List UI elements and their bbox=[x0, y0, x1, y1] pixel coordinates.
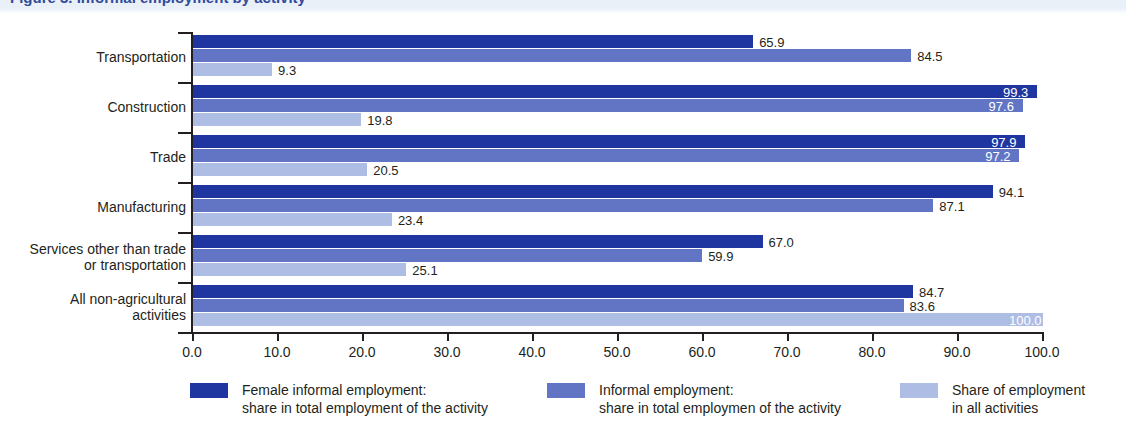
bars-container: 84.783.6100.0 bbox=[193, 285, 1073, 329]
plot-area: Transportation65.984.59.3Construction99.… bbox=[0, 14, 1126, 344]
category-label: All non-agriculturalactivities bbox=[0, 291, 186, 323]
bars-container: 99.397.619.8 bbox=[193, 85, 1073, 129]
x-axis: 0.010.020.030.040.050.060.070.080.090.01… bbox=[0, 332, 1126, 372]
category-label: Construction bbox=[0, 99, 186, 115]
bar-chart: Transportation65.984.59.3Construction99.… bbox=[0, 14, 1126, 435]
bar-series-1[interactable] bbox=[193, 99, 1023, 112]
x-axis-tick-label: 40.0 bbox=[502, 344, 562, 360]
bar-series-1[interactable] bbox=[193, 149, 1019, 162]
legend-label-series-0: Female informal employment: share in tot… bbox=[242, 381, 488, 417]
bar-value-label: 87.1 bbox=[939, 200, 964, 213]
bar-value-label: 83.6 bbox=[910, 300, 935, 313]
category-label: Transportation bbox=[0, 49, 186, 65]
bars-container: 94.187.123.4 bbox=[193, 185, 1073, 229]
bar-value-label: 25.1 bbox=[412, 264, 437, 277]
x-axis-tick bbox=[362, 332, 364, 341]
category-label-line: Transportation bbox=[96, 49, 186, 65]
bar-group: Construction99.397.619.8 bbox=[0, 82, 1126, 132]
bar-series-0[interactable] bbox=[193, 135, 1025, 148]
bar-series-0[interactable] bbox=[193, 35, 753, 48]
bar-group: Transportation65.984.59.3 bbox=[0, 32, 1126, 82]
x-axis-tick bbox=[447, 332, 449, 341]
x-axis-tick bbox=[957, 332, 959, 341]
bar-group: Manufacturing94.187.123.4 bbox=[0, 182, 1126, 232]
bar-series-0[interactable] bbox=[193, 185, 993, 198]
category-label-line: or transportation bbox=[84, 257, 186, 273]
x-axis-tick bbox=[277, 332, 279, 341]
bar-group: Trade97.997.220.5 bbox=[0, 132, 1126, 182]
bar-value-label: 20.5 bbox=[373, 164, 398, 177]
category-label: Manufacturing bbox=[0, 199, 186, 215]
legend-label-series-2-line1: Share of employment bbox=[952, 382, 1085, 398]
legend-label-series-2-line2: in all activities bbox=[952, 400, 1038, 416]
x-axis-tick bbox=[192, 332, 194, 341]
x-axis-tick bbox=[787, 332, 789, 341]
legend-label-series-0-line2: share in total employment of the activit… bbox=[242, 400, 488, 416]
x-axis-tick-label: 90.0 bbox=[927, 344, 987, 360]
bar-value-label: 97.2 bbox=[985, 150, 1010, 163]
bar-value-label: 99.3 bbox=[1003, 86, 1028, 99]
bar-series-2[interactable] bbox=[193, 163, 367, 176]
legend-swatch-series-2 bbox=[900, 383, 938, 398]
bar-series-2[interactable] bbox=[193, 113, 361, 126]
bar-value-label: 97.6 bbox=[989, 100, 1014, 113]
bar-value-label: 94.1 bbox=[999, 186, 1024, 199]
legend-swatch-series-0 bbox=[190, 383, 228, 398]
x-axis-tick bbox=[702, 332, 704, 341]
legend-label-series-1: Informal employment: share in total empl… bbox=[599, 381, 841, 417]
legend-label-series-1-line1: Informal employment: bbox=[599, 382, 734, 398]
x-axis-tick-label: 0.0 bbox=[162, 344, 222, 360]
x-axis-tick-label: 10.0 bbox=[247, 344, 307, 360]
legend-label-series-2: Share of employment in all activities bbox=[952, 381, 1085, 417]
bar-series-1[interactable] bbox=[193, 299, 904, 312]
x-axis-tick bbox=[1042, 332, 1044, 341]
bar-value-label: 84.7 bbox=[919, 286, 944, 299]
bars-container: 65.984.59.3 bbox=[193, 35, 1073, 79]
bar-value-label: 100.0 bbox=[1009, 314, 1042, 327]
bar-group: Services other than tradeor transportati… bbox=[0, 232, 1126, 282]
bar-series-1[interactable] bbox=[193, 49, 911, 62]
x-axis-tick-label: 60.0 bbox=[672, 344, 732, 360]
bar-value-label: 67.0 bbox=[769, 236, 794, 249]
chart-legend: Female informal employment: share in tot… bbox=[0, 381, 1126, 435]
category-label-line: Trade bbox=[150, 149, 186, 165]
legend-label-series-0-line1: Female informal employment: bbox=[242, 382, 426, 398]
x-axis-tick bbox=[872, 332, 874, 341]
x-axis-tick bbox=[532, 332, 534, 341]
x-axis-tick bbox=[617, 332, 619, 341]
bar-series-2[interactable] bbox=[193, 213, 392, 226]
x-axis-tick-label: 50.0 bbox=[587, 344, 647, 360]
bar-series-2[interactable] bbox=[193, 313, 1043, 326]
x-axis-tick-label: 80.0 bbox=[842, 344, 902, 360]
category-label-line: Manufacturing bbox=[97, 199, 186, 215]
bar-series-0[interactable] bbox=[193, 235, 763, 248]
legend-swatch-series-1 bbox=[547, 383, 585, 398]
bar-series-0[interactable] bbox=[193, 285, 913, 298]
category-label-line: activities bbox=[132, 307, 186, 323]
cropped-title-band: Figure 3. Informal employment by activit… bbox=[0, 0, 1126, 14]
legend-label-series-1-line2: share in total employmen of the activity bbox=[599, 400, 841, 416]
bar-series-0[interactable] bbox=[193, 85, 1037, 98]
bar-value-label: 97.9 bbox=[991, 136, 1016, 149]
bar-value-label: 59.9 bbox=[708, 250, 733, 263]
bar-series-1[interactable] bbox=[193, 199, 933, 212]
category-label: Trade bbox=[0, 149, 186, 165]
category-label-line: Services other than trade bbox=[30, 241, 186, 257]
bar-value-label: 65.9 bbox=[759, 36, 784, 49]
x-axis-tick-label: 100.0 bbox=[1012, 344, 1072, 360]
bars-container: 97.997.220.5 bbox=[193, 135, 1073, 179]
bar-value-label: 23.4 bbox=[398, 214, 423, 227]
figure-title: Figure 3. Informal employment by activit… bbox=[10, 0, 306, 6]
x-axis-tick-label: 30.0 bbox=[417, 344, 477, 360]
x-axis-tick-label: 70.0 bbox=[757, 344, 817, 360]
x-axis-tick-label: 20.0 bbox=[332, 344, 392, 360]
bar-series-2[interactable] bbox=[193, 63, 272, 76]
bar-series-1[interactable] bbox=[193, 249, 702, 262]
bar-value-label: 19.8 bbox=[367, 114, 392, 127]
bar-series-2[interactable] bbox=[193, 263, 406, 276]
category-label: Services other than tradeor transportati… bbox=[0, 241, 186, 273]
bar-group: All non-agriculturalactivities84.783.610… bbox=[0, 282, 1126, 332]
bars-container: 67.059.925.1 bbox=[193, 235, 1073, 279]
bar-value-label: 84.5 bbox=[917, 50, 942, 63]
bar-value-label: 9.3 bbox=[278, 64, 296, 77]
